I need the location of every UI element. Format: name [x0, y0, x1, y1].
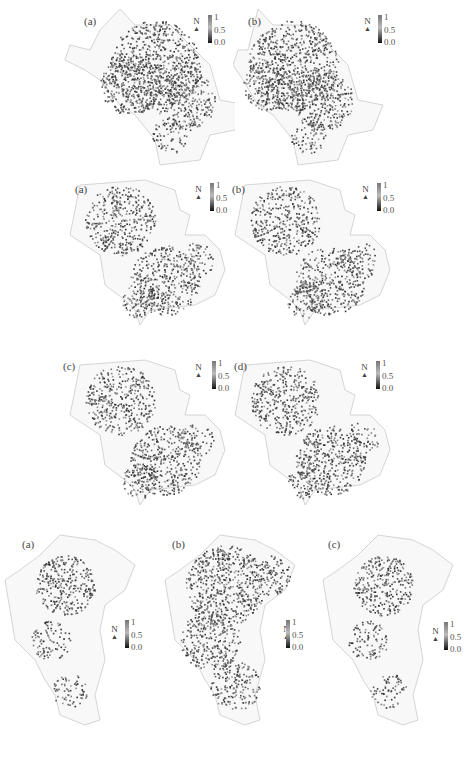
map-pixel — [303, 41, 305, 43]
map-pixel — [154, 64, 156, 66]
map-pixel — [149, 72, 151, 74]
map-pixel — [193, 90, 195, 92]
map-pixel — [311, 85, 313, 87]
map-pixel — [240, 642, 242, 644]
map-pixel — [268, 250, 270, 252]
map-pixel — [65, 607, 67, 609]
map-pixel — [305, 382, 307, 384]
map-pixel — [366, 244, 368, 246]
map-pixel — [225, 685, 227, 687]
map-pixel — [153, 297, 155, 299]
map-pixel — [374, 260, 376, 262]
map-pixel — [111, 83, 113, 85]
map-pixel — [202, 596, 204, 598]
map-pixel — [308, 229, 310, 231]
map-pixel — [305, 68, 307, 70]
map-pixel — [346, 276, 348, 278]
map-pixel — [156, 305, 158, 307]
map-pixel — [69, 608, 71, 610]
map-pixel — [114, 75, 116, 77]
map-pixel — [326, 96, 328, 98]
map-pixel — [77, 561, 79, 563]
map-pixel — [296, 286, 298, 288]
map-pixel — [330, 433, 332, 435]
map-pixel — [260, 593, 262, 595]
map-pixel — [277, 71, 279, 73]
map-pixel — [321, 295, 323, 297]
map-pixel — [119, 201, 121, 203]
map-pixel — [269, 224, 271, 226]
map-pixel — [110, 192, 112, 194]
map-pixel — [307, 462, 309, 464]
map-pixel — [259, 585, 261, 587]
map-pixel — [218, 576, 220, 578]
map-pixel — [61, 684, 63, 686]
map-pixel — [254, 385, 256, 387]
map-pixel — [403, 563, 405, 565]
map-pixel — [164, 55, 166, 57]
map-pixel — [136, 58, 138, 60]
map-pixel — [160, 91, 162, 93]
map-pixel — [131, 415, 133, 417]
map-pixel — [302, 474, 304, 476]
map-pixel — [342, 81, 344, 83]
map-pixel — [256, 600, 258, 602]
map-pixel — [105, 424, 107, 426]
map-pixel — [299, 417, 301, 419]
map-pixel — [127, 380, 129, 382]
map-pixel — [181, 86, 183, 88]
map-pixel — [130, 210, 132, 212]
map-pixel — [127, 74, 129, 76]
map-pixel — [333, 250, 335, 252]
map-pixel — [196, 64, 198, 66]
map-pixel — [184, 433, 186, 435]
map-pixel — [308, 270, 310, 272]
map-pixel — [328, 485, 330, 487]
map-pixel — [158, 454, 160, 456]
map-pixel — [112, 198, 114, 200]
map-pixel — [153, 275, 155, 277]
map-pixel — [124, 232, 126, 234]
map-pixel — [296, 81, 298, 83]
map-pixel — [309, 26, 311, 28]
map-pixel — [178, 79, 180, 81]
map-pixel — [213, 624, 215, 626]
map-pixel — [142, 105, 144, 107]
map-pixel — [154, 270, 156, 272]
map-pixel — [145, 37, 147, 39]
map-pixel — [132, 196, 134, 198]
map-pixel — [252, 572, 254, 574]
map-pixel — [262, 51, 264, 53]
map-pixel — [282, 380, 284, 382]
map-pixel — [132, 79, 134, 81]
map-pixel — [237, 636, 239, 638]
map-pixel — [240, 592, 242, 594]
map-pixel — [271, 229, 273, 231]
map-pixel — [215, 603, 217, 605]
map-pixel — [164, 296, 166, 298]
map-pixel — [317, 312, 319, 314]
map-pixel — [148, 489, 150, 491]
map-pixel — [105, 73, 107, 75]
map-pixel — [335, 297, 337, 299]
map-pixel — [141, 66, 143, 68]
map-pixel — [150, 88, 152, 90]
map-pixel — [358, 246, 360, 248]
map-pixel — [285, 35, 287, 37]
map-pixel — [176, 448, 178, 450]
map-pixel — [204, 634, 206, 636]
map-pixel — [218, 648, 220, 650]
map-pixel — [56, 601, 58, 603]
map-pixel — [186, 44, 188, 46]
map-pixel — [102, 400, 104, 402]
map-pixel — [71, 571, 73, 573]
map-pixel — [323, 96, 325, 98]
map-pixel — [230, 586, 232, 588]
map-pixel — [319, 281, 321, 283]
map-pixel — [396, 682, 398, 684]
map-pixel — [406, 594, 408, 596]
map-pixel — [321, 129, 323, 131]
map-pixel — [323, 475, 325, 477]
map-pixel — [39, 574, 41, 576]
map-pixel — [285, 206, 287, 208]
